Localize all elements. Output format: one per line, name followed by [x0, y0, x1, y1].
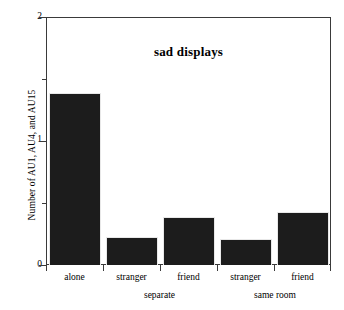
y-axis-title: Number of AU1, AU4, and AU15	[27, 55, 37, 255]
x-tick-0	[46, 265, 47, 271]
y-tick-label-0: 0	[2, 260, 42, 270]
x-group-label-separate: separate	[131, 290, 188, 300]
x-label-sameroom-friend: friend	[274, 272, 331, 282]
y-tick-major-1	[39, 141, 46, 142]
bar-separate-friend	[163, 217, 215, 265]
x-tick-4	[274, 265, 275, 271]
x-tick-1	[103, 265, 104, 271]
y-tick-label-1: 1	[2, 135, 42, 145]
x-tick-2	[160, 265, 161, 271]
x-label-alone: alone	[46, 272, 103, 282]
bar-sameroom-stranger	[220, 239, 272, 265]
x-label-sameroom-stranger: stranger	[217, 272, 274, 282]
bar-sameroom-friend	[277, 212, 329, 265]
x-tick-5	[330, 265, 331, 271]
x-label-separate-friend: friend	[160, 272, 217, 282]
y-tick-label-2: 2	[2, 12, 42, 22]
x-tick-3	[217, 265, 218, 271]
bar-alone	[49, 93, 101, 265]
sad-displays-bar-chart: Number of AU1, AU4, and AU15 2 1 0 sad d…	[0, 0, 344, 310]
y-tick-major-0	[39, 265, 46, 266]
y-tick-major-2	[39, 17, 46, 18]
bars-layer	[47, 18, 330, 265]
x-label-separate-stranger: stranger	[103, 272, 160, 282]
x-group-label-same-room: same room	[245, 290, 305, 300]
bar-separate-stranger	[106, 237, 158, 265]
